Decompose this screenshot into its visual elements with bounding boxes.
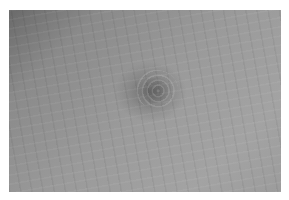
lesion-flecks xyxy=(134,70,178,108)
skin-photo xyxy=(9,10,281,192)
